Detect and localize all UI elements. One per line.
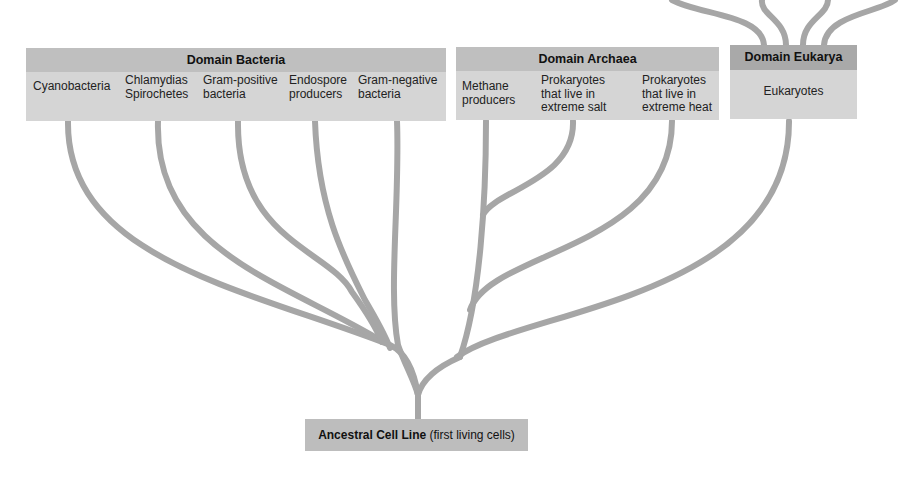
group-extreme-salt: Prokaryotes that live in extreme salt [541,74,606,115]
domain-bacteria-box: Domain Bacteria Cyanobacteria Chlamydias… [26,48,446,121]
group-gram-negative: Gram-negative bacteria [358,74,437,101]
ancestral-cell-line-box: Ancestral Cell Line (first living cells) [305,419,528,451]
group-chlamydias-spirochetes: Chlamydias Spirochetes [125,74,188,101]
ancestral-cell-line-note: (first living cells) [426,428,515,442]
branch-gram-positive [238,121,382,342]
branch-methane [460,121,486,357]
branch-eukaryotes [457,121,789,357]
domain-eukarya-box: Domain Eukarya Eukaryotes [730,45,857,119]
domain-bacteria-header: Domain Bacteria [26,48,446,72]
domain-archaea-box: Domain Archaea Methane producers Prokary… [456,47,719,120]
group-methane-producers: Methane producers [462,80,515,107]
group-gram-positive: Gram-positive bacteria [203,74,278,101]
branch-chlamydias [158,121,380,340]
branch-extreme-salt [483,121,573,215]
domain-eukarya-header: Domain Eukarya [730,45,857,70]
branch-gram-negative [394,121,418,395]
branch-archaea-eukarya-stem [418,357,460,395]
group-cyanobacteria: Cyanobacteria [33,80,110,94]
domain-archaea-header: Domain Archaea [456,47,719,71]
branch-extreme-heat [470,121,672,310]
ancestral-cell-line-label: Ancestral Cell Line [318,428,426,442]
branch-eukarya-up-1 [672,0,764,45]
group-eukaryotes: Eukaryotes [730,85,857,99]
group-endospore-producers: Endospore producers [289,74,347,101]
group-extreme-heat: Prokaryotes that live in extreme heat [642,74,712,115]
branch-eukarya-up-4 [824,0,895,45]
